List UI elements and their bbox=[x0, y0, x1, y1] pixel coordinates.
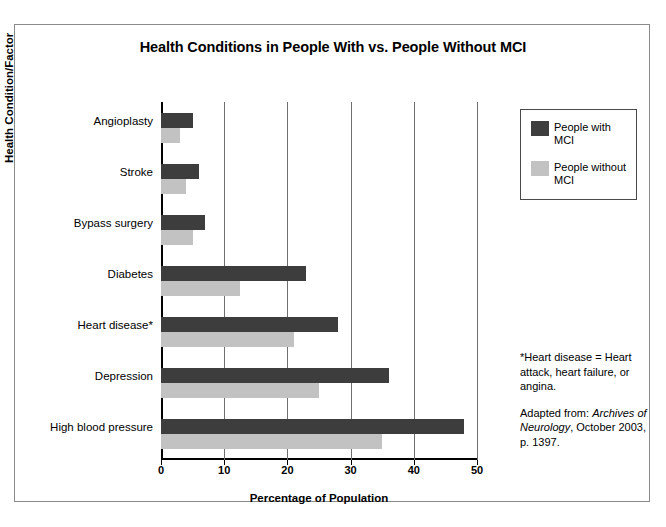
bar-without-mci bbox=[161, 230, 193, 245]
x-tick-label-40: 40 bbox=[408, 464, 420, 476]
bar-group: Stroke bbox=[161, 164, 477, 194]
bar-with-mci bbox=[161, 164, 199, 179]
legend-swatch-without bbox=[531, 161, 549, 176]
bar-without-mci bbox=[161, 434, 382, 449]
x-tick-label-0: 0 bbox=[158, 464, 164, 476]
bar-with-mci bbox=[161, 368, 389, 383]
legend-item: People with MCI bbox=[531, 121, 627, 147]
x-tick-label-10: 10 bbox=[218, 464, 230, 476]
category-label: High blood pressure bbox=[0, 421, 153, 434]
bar-with-mci bbox=[161, 419, 464, 434]
chart-title: Health Conditions in People With vs. Peo… bbox=[15, 39, 651, 55]
chart-notes: *Heart disease = Heart attack, heart fai… bbox=[520, 350, 648, 449]
legend-label: People with MCI bbox=[554, 121, 627, 147]
legend-item: People without MCI bbox=[531, 161, 627, 187]
bar-without-mci bbox=[161, 332, 294, 347]
heart-disease-footnote: *Heart disease = Heart attack, heart fai… bbox=[520, 350, 648, 394]
gridline-50 bbox=[477, 102, 478, 460]
bar-without-mci bbox=[161, 128, 180, 143]
x-tick-label-20: 20 bbox=[281, 464, 293, 476]
legend-label: People without MCI bbox=[554, 161, 627, 187]
y-axis-title: Health Condition/Factor bbox=[3, 33, 15, 163]
x-axis-title: Percentage of Population bbox=[161, 492, 477, 504]
bar-without-mci bbox=[161, 281, 240, 296]
bar-with-mci bbox=[161, 113, 193, 128]
category-label: Bypass surgery bbox=[0, 217, 153, 230]
category-label: Heart disease* bbox=[0, 319, 153, 332]
chart-figure: Health Conditions in People With vs. Peo… bbox=[14, 24, 650, 502]
bar-group: Angioplasty bbox=[161, 113, 477, 143]
x-tick-label-30: 30 bbox=[344, 464, 356, 476]
bar-without-mci bbox=[161, 179, 186, 194]
bar-with-mci bbox=[161, 215, 205, 230]
bar-without-mci bbox=[161, 383, 319, 398]
x-tick-label-50: 50 bbox=[471, 464, 483, 476]
category-label: Diabetes bbox=[0, 268, 153, 281]
category-label: Angioplasty bbox=[0, 115, 153, 128]
chart-legend: People with MCIPeople without MCI bbox=[520, 109, 637, 200]
bar-with-mci bbox=[161, 317, 338, 332]
bar-group: Heart disease* bbox=[161, 317, 477, 347]
plot-area: 01020304050 AngioplastyStrokeBypass surg… bbox=[161, 102, 477, 460]
bar-with-mci bbox=[161, 266, 306, 281]
category-label: Depression bbox=[0, 370, 153, 383]
bar-group: Diabetes bbox=[161, 266, 477, 296]
bar-group: High blood pressure bbox=[161, 419, 477, 449]
source-prefix: Adapted from: bbox=[520, 407, 592, 419]
source-note: Adapted from: Archives of Neurology, Oct… bbox=[520, 406, 648, 450]
bar-group: Depression bbox=[161, 368, 477, 398]
bar-group: Bypass surgery bbox=[161, 215, 477, 245]
category-label: Stroke bbox=[0, 166, 153, 179]
legend-swatch-with bbox=[531, 121, 549, 136]
